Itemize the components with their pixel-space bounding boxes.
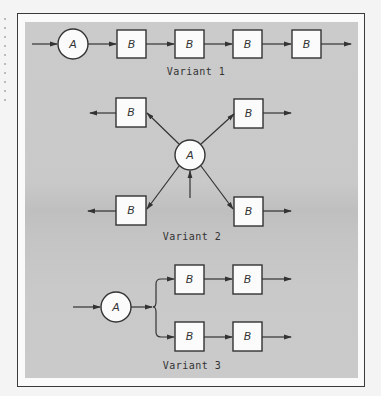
variant-3: A B B B B Variant 3 — [73, 265, 291, 371]
v1-node-b1-label: B — [128, 38, 136, 51]
v2-arrow-a-bottom-right — [201, 166, 233, 209]
v1-caption: Variant 1 — [167, 66, 226, 77]
v2-arrow-a-top-left — [147, 113, 179, 144]
v3-node-b-bottom-2-label: B — [244, 330, 252, 343]
v3-branch-bottom — [153, 307, 174, 337]
v2-node-a-label: A — [185, 149, 194, 162]
v2-node-b-top-left-label: B — [127, 106, 135, 119]
v3-node-b-bottom-1-label: B — [186, 330, 194, 343]
v2-arrow-a-bottom-left — [147, 166, 179, 209]
v3-node-a-label: A — [111, 301, 120, 314]
v3-branch-top — [153, 279, 174, 307]
v1-node-b3-label: B — [244, 38, 252, 51]
v3-node-b-top-1-label: B — [186, 273, 194, 286]
v2-arrow-a-top-right — [201, 114, 234, 144]
variant-2: B B B B A Variant 2 — [88, 98, 291, 242]
v3-caption: Variant 3 — [163, 360, 222, 371]
v3-node-b-top-2-label: B — [244, 273, 252, 286]
v2-node-b-bottom-right-label: B — [245, 205, 253, 218]
v2-node-b-top-right-label: B — [245, 107, 253, 120]
v1-node-b2-label: B — [186, 38, 194, 51]
flow-diagram: A B B B B Variant 1 B B B B — [0, 0, 381, 396]
v2-node-b-bottom-left-label: B — [127, 204, 135, 217]
v1-node-b4-label: B — [303, 38, 311, 51]
variant-1: A B B B B Variant 1 — [32, 29, 351, 77]
v2-caption: Variant 2 — [163, 231, 222, 242]
v1-node-a-label: A — [68, 38, 77, 51]
